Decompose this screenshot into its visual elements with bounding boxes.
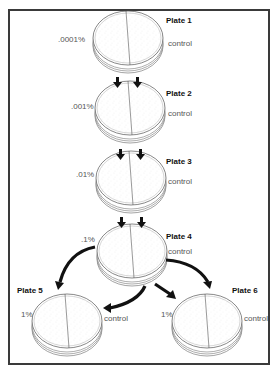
plate-1-title: Plate 1 bbox=[166, 17, 192, 25]
plate-3-dish bbox=[96, 151, 166, 213]
plate-3-title: Plate 3 bbox=[166, 158, 192, 166]
plate-4-concentration: .1% bbox=[81, 236, 95, 244]
plate-6-concentration: 1% bbox=[161, 311, 173, 319]
plate-6-title: Plate 6 bbox=[232, 287, 258, 295]
plate-2-dish bbox=[95, 81, 165, 143]
arrow-4-to-5 bbox=[55, 247, 95, 290]
plate-6-dish bbox=[172, 294, 242, 356]
plate-2-concentration: .001% bbox=[71, 103, 94, 111]
plate-5-dish bbox=[32, 294, 102, 356]
plate-2-control-label: control bbox=[168, 110, 192, 118]
dilution-diagram bbox=[0, 0, 277, 376]
plate-3-concentration: .01% bbox=[76, 171, 94, 179]
plate-5-title: Plate 5 bbox=[17, 287, 43, 295]
plate-5-control-label: control bbox=[104, 315, 128, 323]
plate-4-control-label: control bbox=[168, 248, 192, 256]
plate-4-dish bbox=[97, 224, 167, 286]
plate-1-control-label: control bbox=[168, 40, 192, 48]
plate-5-concentration: 1% bbox=[21, 311, 33, 319]
plate-1-dish bbox=[93, 11, 163, 73]
plate-6-control-label: control bbox=[244, 315, 268, 323]
plate-3-control-label: control bbox=[168, 178, 192, 186]
plate-4-title: Plate 4 bbox=[166, 233, 192, 241]
arrow-4-to-5-control bbox=[103, 286, 145, 313]
plate-1-concentration: .0001% bbox=[58, 36, 85, 44]
arrow-4-to-6-straight bbox=[155, 284, 176, 299]
plate-2-title: Plate 2 bbox=[166, 90, 192, 98]
arrow-4-to-6 bbox=[166, 260, 212, 289]
